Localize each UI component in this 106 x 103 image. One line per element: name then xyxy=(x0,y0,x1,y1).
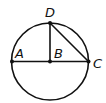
point-B xyxy=(48,60,52,64)
label-C: C xyxy=(93,56,103,71)
label-D: D xyxy=(45,5,55,20)
point-C xyxy=(87,60,91,64)
circle-diagram: A B C D xyxy=(0,0,106,103)
point-A xyxy=(10,60,14,64)
label-A: A xyxy=(14,46,24,61)
label-B: B xyxy=(54,46,63,61)
point-D xyxy=(48,21,52,25)
